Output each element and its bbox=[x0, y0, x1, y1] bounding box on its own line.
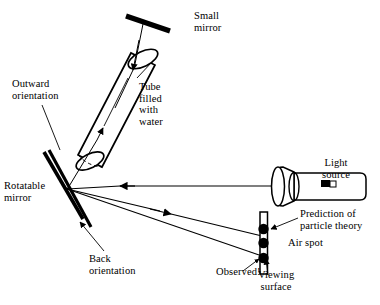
spot-prediction bbox=[258, 224, 268, 234]
label-tube-filled-with-water: Tube filled with water bbox=[139, 81, 163, 127]
diagram-canvas: Small mirror Tube filled with water Outw… bbox=[0, 0, 380, 305]
label-viewing-surface: Viewing surface bbox=[258, 269, 294, 292]
label-back-orientation: Back orientation bbox=[89, 253, 136, 276]
ray-source-to-mirror bbox=[67, 186, 276, 189]
label-outward-orientation: Outward orientation bbox=[12, 78, 59, 101]
spot-observed bbox=[258, 253, 268, 263]
light-source bbox=[272, 167, 367, 206]
ray-mirror-to-surface-lower bbox=[67, 189, 262, 256]
label-observed: Observed! bbox=[216, 266, 261, 278]
pointer-prediction bbox=[271, 218, 298, 229]
ray-mirror-to-surface-upper bbox=[67, 189, 262, 236]
label-prediction-of-particle-theory: Prediction of particle theory bbox=[300, 208, 362, 231]
optics-diagram bbox=[0, 0, 380, 305]
label-small-mirror: Small mirror bbox=[194, 10, 221, 33]
label-rotatable-mirror: Rotatable mirror bbox=[4, 180, 45, 203]
label-air-spot: Air spot bbox=[288, 237, 323, 249]
spot-air bbox=[258, 238, 268, 248]
label-light-source: Light source bbox=[322, 157, 350, 180]
pointer-outward-orientation bbox=[42, 105, 60, 150]
